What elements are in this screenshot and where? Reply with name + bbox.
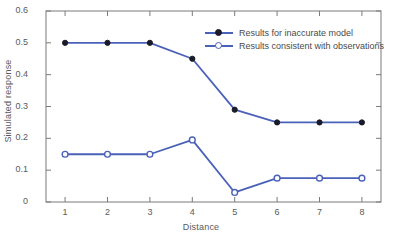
x-tick-label: 6 xyxy=(267,207,287,217)
x-axis-title: Distance xyxy=(0,222,402,232)
legend-label: Results consistent with observations xyxy=(239,41,384,51)
legend-marker-icon xyxy=(205,39,233,52)
x-tick-label: 3 xyxy=(140,207,160,217)
y-tick-label: 0.3 xyxy=(0,101,28,111)
y-tick-label: 0.2 xyxy=(0,132,28,142)
x-tick-label: 8 xyxy=(352,207,372,217)
legend-marker-icon xyxy=(205,26,233,39)
legend-item: Results consistent with observations xyxy=(205,39,384,52)
legend-label: Results for inaccurate model xyxy=(239,28,353,38)
series-0 xyxy=(62,40,364,125)
x-tick-label: 1 xyxy=(55,207,75,217)
y-tick-label: 0.6 xyxy=(0,5,28,15)
y-tick-label: 0 xyxy=(0,196,28,206)
legend-item: Results for inaccurate model xyxy=(205,26,384,39)
y-tick-label: 0.4 xyxy=(0,69,28,79)
chart-legend: Results for inaccurate modelResults cons… xyxy=(205,26,384,52)
x-tick-label: 5 xyxy=(225,207,245,217)
chart-figure: Simulated response Distance 0.60.50.40.3… xyxy=(0,0,402,243)
y-tick-label: 0.1 xyxy=(0,164,28,174)
x-tick-label: 2 xyxy=(97,207,117,217)
series-1 xyxy=(62,137,365,195)
y-tick-label: 0.5 xyxy=(0,37,28,47)
x-tick-label: 7 xyxy=(310,207,330,217)
x-tick-label: 4 xyxy=(182,207,202,217)
